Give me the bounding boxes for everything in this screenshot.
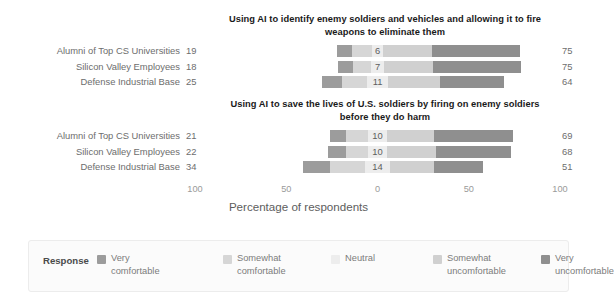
legend-swatch-icon [223,255,232,264]
panel-title: Using AI to save the lives of U.S. soldi… [215,98,555,123]
row-neutral-value: 10 [358,129,398,143]
legend-title: Response [43,255,89,266]
row-bar: 11 [195,75,560,89]
axis-tick-label: 100 [540,182,580,196]
row-category-label: Alumni of Top CS Universities [0,44,180,58]
bar-segment [330,130,346,142]
row-uncomfortable-total: 75 [562,44,592,58]
row-category-label: Silicon Valley Employees [0,60,180,74]
legend-swatch-icon [97,255,106,264]
row-neutral-value: 14 [358,160,398,174]
legend: Response Very comfortableSomewhat comfor… [28,240,569,292]
row-neutral-value: 6 [358,44,398,58]
bar-segment [433,61,521,73]
row-category-label: Defense Industrial Base [0,160,180,174]
bar-segment [436,146,511,158]
x-axis: 10050050100 [0,182,597,196]
chart-row: Defense Industrial Base345114 [0,160,597,174]
bar-segment [337,45,352,57]
row-bar: 14 [195,160,560,174]
row-uncomfortable-total: 51 [562,160,592,174]
row-bar: 7 [195,60,560,74]
bar-segment [440,76,504,88]
chart-row: Alumni of Top CS Universities19756 [0,44,597,58]
row-neutral-value: 7 [358,60,398,74]
row-uncomfortable-total: 69 [562,129,592,143]
row-category-label: Silicon Valley Employees [0,145,180,159]
row-neutral-value: 10 [358,145,398,159]
bar-segment [434,130,512,142]
bar-segment [432,45,520,57]
row-bar: 6 [195,44,560,58]
axis-tick-label: 50 [449,182,489,196]
legend-label: Very comfortable [111,252,160,277]
row-uncomfortable-total: 64 [562,75,592,89]
panel-title: Using AI to identify enemy soldiers and … [215,13,555,38]
legend-label: Somewhat comfortable [237,252,286,277]
legend-label: Very uncomfortable [555,252,614,277]
legend-label: Somewhat uncomfortable [447,252,506,277]
bar-segment [303,161,330,173]
bar-segment [328,146,346,158]
axis-tick-label: 0 [358,182,398,196]
row-bar: 10 [195,129,560,143]
legend-swatch-icon [331,255,340,264]
bar-segment [338,61,353,73]
chart-row: Silicon Valley Employees226810 [0,145,597,159]
legend-swatch-icon [433,255,442,264]
axis-tick-label: 100 [175,182,215,196]
legend-label: Neutral [345,252,375,265]
chart-row: Alumni of Top CS Universities216910 [0,129,597,143]
row-category-label: Defense Industrial Base [0,75,180,89]
axis-tick-label: 50 [266,182,306,196]
row-category-label: Alumni of Top CS Universities [0,129,180,143]
chart-row: Defense Industrial Base256411 [0,75,597,89]
row-neutral-value: 11 [358,75,398,89]
legend-swatch-icon [541,255,550,264]
row-uncomfortable-total: 75 [562,60,592,74]
bar-segment [322,76,342,88]
bar-segment [434,161,483,173]
row-uncomfortable-total: 68 [562,145,592,159]
chart-row: Silicon Valley Employees18757 [0,60,597,74]
x-axis-title: Percentage of respondents [0,200,597,213]
row-bar: 10 [195,145,560,159]
